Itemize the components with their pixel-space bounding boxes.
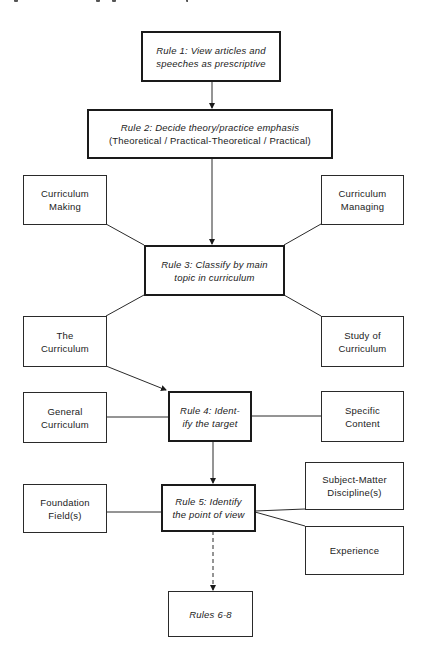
line-rule5-to-experience [255, 512, 305, 526]
rule1-box: Rule 1: View articles and speeches as pr… [141, 31, 281, 82]
study-of-curriculum-line1: Study of [344, 329, 380, 342]
foundation-fields-line1: Foundation [40, 496, 90, 509]
experience-label: Experience [330, 544, 380, 557]
curriculum-managing-line1: Curriculum [339, 187, 387, 200]
foundation-fields-box: Foundation Field(s) [23, 484, 107, 533]
line-making-to-rule3 [106, 224, 144, 245]
study-of-curriculum-line2: Curriculum [339, 342, 387, 355]
rule1-line1: Rule 1: View articles and [156, 44, 265, 57]
specific-content-box: Specific Content [321, 391, 404, 442]
rule3-line1: Rule 3: Classify by main [161, 258, 268, 271]
foundation-fields-line2: Field(s) [48, 509, 81, 522]
the-curriculum-line2: Curriculum [41, 342, 89, 355]
rule4-line2: ify the target [182, 417, 237, 430]
rule2-options: (Theoretical / Practical-Theoretical / P… [109, 134, 311, 147]
line-rule3-to-study [284, 295, 321, 316]
line-managing-to-rule3 [284, 224, 321, 245]
the-curriculum-box: The Curriculum [23, 316, 107, 367]
rule3-box: Rule 3: Classify by main topic in curric… [144, 245, 285, 296]
curriculum-making-line1: Curriculum [41, 187, 89, 200]
rules6-8-label: Rules 6-8 [189, 608, 231, 621]
curriculum-managing-line2: Managing [341, 200, 384, 213]
curriculum-managing-box: Curriculum Managing [321, 175, 404, 225]
curriculum-making-box: Curriculum Making [23, 175, 107, 225]
rule5-line2: the point of view [172, 508, 244, 521]
subject-matter-line1: Subject-Matter [322, 473, 387, 486]
rule2-box: Rule 2: Decide theory/practice emphasis … [87, 109, 333, 159]
rule5-line1: Rule 5: Identify [175, 495, 242, 508]
experience-box: Experience [305, 526, 404, 575]
subject-matter-box: Subject-Matter Discipline(s) [305, 462, 404, 510]
rule3-line2: topic in curriculum [174, 271, 254, 284]
rule5-box: Rule 5: Identify the point of view [161, 484, 256, 532]
specific-content-line2: Content [345, 417, 380, 430]
rule4-line1: Rule 4: Ident- [180, 404, 240, 417]
general-curriculum-line2: Curriculum [41, 418, 89, 431]
general-curriculum-line1: General [47, 405, 82, 418]
flowchart-diagram: Rule 1: View articles and speeches as pr… [0, 0, 426, 666]
line-rule5-to-subject [255, 509, 305, 511]
subject-matter-line2: Discipline(s) [327, 486, 381, 499]
rules6-8-box: Rules 6-8 [168, 591, 253, 637]
study-of-curriculum-box: Study of Curriculum [321, 316, 404, 367]
rule2-line1: Rule 2: Decide theory/practice emphasis [121, 121, 299, 134]
general-curriculum-box: General Curriculum [23, 392, 107, 443]
rule4-box: Rule 4: Ident- ify the target [168, 391, 252, 442]
the-curriculum-line1: The [57, 329, 74, 342]
curriculum-making-line2: Making [49, 200, 81, 213]
line-rule3-to-the-curriculum [106, 295, 144, 316]
specific-content-line1: Specific [345, 404, 380, 417]
arrow-the-curriculum-to-rule4 [106, 366, 166, 390]
rule1-line2: speeches as prescriptive [156, 57, 265, 70]
